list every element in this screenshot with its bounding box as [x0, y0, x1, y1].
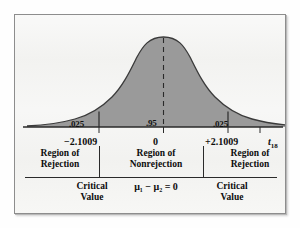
critical-value-right: Critical Value — [197, 181, 267, 203]
figure-frame: .025 .95 .025 −2.1009 0 +2.1009 t18 Regi… — [14, 14, 286, 214]
region-of-rejection-left: Region of Rejection — [21, 148, 99, 170]
tick-label-zero: 0 — [153, 136, 158, 147]
region-left-line2: Rejection — [21, 159, 99, 170]
region-right-line1: Region of — [211, 148, 286, 159]
t-distribution-curve — [15, 15, 285, 133]
region-center-line1: Region of — [111, 148, 201, 159]
null-hypothesis-label: μ₁ − μ₂ = 0 — [111, 181, 201, 192]
region-right-line2: Rejection — [211, 159, 286, 170]
alpha-right-label: .025 — [213, 119, 228, 129]
curve-fill — [27, 37, 285, 127]
region-of-nonrejection: Region of Nonrejection — [111, 148, 201, 170]
critical-right-line2: Value — [197, 192, 267, 203]
region-divider-right — [203, 146, 204, 177]
tick-label-negative-critical: −2.1009 — [64, 136, 97, 147]
region-of-rejection-right: Region of Rejection — [211, 148, 286, 170]
central-area-label: .95 — [146, 118, 157, 128]
critical-left-line2: Value — [57, 192, 127, 203]
statistics-figure: .025 .95 .025 −2.1009 0 +2.1009 t18 Regi… — [0, 0, 300, 228]
distribution-plot — [15, 15, 285, 133]
region-left-line1: Region of — [21, 148, 99, 159]
bottom-separator-rule — [25, 177, 277, 178]
alpha-left-label: .025 — [69, 119, 84, 129]
region-divider-left — [99, 146, 100, 177]
region-center-line2: Nonrejection — [111, 159, 201, 170]
critical-right-line1: Critical — [197, 181, 267, 192]
null-hypothesis-text: μ₁ − μ₂ = 0 — [134, 181, 178, 192]
tick-label-positive-critical: +2.1009 — [205, 136, 238, 147]
